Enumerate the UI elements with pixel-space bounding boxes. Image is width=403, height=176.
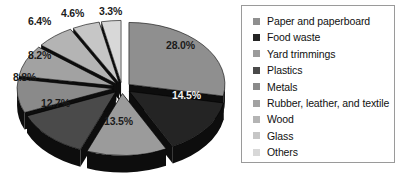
legend-swatch-icon bbox=[253, 116, 260, 123]
slice-label-glass: 4.6% bbox=[61, 8, 84, 19]
legend-item-label: Glass bbox=[267, 131, 293, 142]
slice-label-wood: 6.4% bbox=[28, 16, 51, 27]
legend-item-label: Others bbox=[267, 147, 298, 158]
legend-swatch-icon bbox=[253, 50, 260, 57]
legend-item-label: Rubber, leather, and textile bbox=[267, 98, 389, 109]
slice-label-food-waste: 14.5% bbox=[172, 90, 201, 101]
legend-item-label: Food waste bbox=[267, 32, 320, 43]
legend: Paper and paperboardFood wasteYard trimm… bbox=[241, 5, 395, 163]
legend-swatch-icon bbox=[253, 34, 260, 41]
legend-swatch-icon bbox=[253, 100, 260, 107]
legend-item[interactable]: Glass bbox=[253, 128, 394, 144]
legend-item-label: Paper and paperboard bbox=[267, 16, 370, 27]
legend-swatch-icon bbox=[253, 132, 260, 139]
legend-swatch-icon bbox=[253, 67, 260, 74]
slice-label-metals: 8.8% bbox=[13, 72, 36, 83]
legend-item[interactable]: Plastics bbox=[253, 62, 394, 78]
legend-item[interactable]: Wood bbox=[253, 111, 394, 127]
legend-item[interactable]: Paper and paperboard bbox=[253, 13, 394, 29]
legend-swatch-icon bbox=[253, 83, 260, 90]
legend-swatch-icon bbox=[253, 18, 260, 25]
pie-chart-figure: 28.0% 14.5% 13.5% 12.7% 8.8% 8.2% 6.4% 4… bbox=[0, 0, 403, 176]
legend-item-label: Yard trimmings bbox=[267, 49, 335, 60]
legend-item[interactable]: Yard trimmings bbox=[253, 46, 394, 62]
slice-label-yard-trimmings: 13.5% bbox=[104, 116, 133, 127]
legend-item-label: Plastics bbox=[267, 65, 302, 76]
legend-item[interactable]: Rubber, leather, and textile bbox=[253, 95, 394, 111]
legend-item[interactable]: Others bbox=[253, 144, 394, 160]
legend-item-label: Wood bbox=[267, 114, 294, 125]
pie-slice[interactable] bbox=[129, 22, 225, 96]
slice-label-rubber-leather-and-textile: 8.2% bbox=[28, 50, 51, 61]
legend-item[interactable]: Metals bbox=[253, 79, 394, 95]
legend-swatch-icon bbox=[253, 149, 260, 156]
legend-item[interactable]: Food waste bbox=[253, 29, 394, 45]
slice-label-plastics: 12.7% bbox=[41, 98, 70, 109]
slice-label-others: 3.3% bbox=[99, 6, 122, 17]
legend-item-label: Metals bbox=[267, 82, 297, 93]
slice-label-paper-and-paperboard: 28.0% bbox=[166, 40, 195, 51]
pie-chart-plot-area: 28.0% 14.5% 13.5% 12.7% 8.8% 8.2% 6.4% 4… bbox=[0, 0, 245, 176]
